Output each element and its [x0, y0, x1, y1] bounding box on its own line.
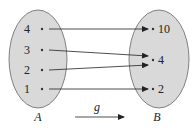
set-a-element-3: 3 [24, 43, 30, 57]
set-b-element-10: 10 [158, 22, 170, 36]
set-a-element-4: 4 [24, 22, 30, 36]
dot [41, 49, 43, 51]
set-a-element-2: 2 [24, 63, 30, 77]
set-b-element-4: 4 [158, 53, 164, 67]
dot [41, 88, 43, 90]
dot [152, 59, 154, 61]
function-label: g [94, 100, 100, 114]
dot [152, 28, 154, 30]
set-a-ellipse [9, 10, 67, 108]
dot [152, 88, 154, 90]
mapping-diagram: 4 3 2 1 10 4 2 A B g [0, 0, 194, 130]
dot [41, 69, 43, 71]
set-a-element-1: 1 [24, 82, 30, 96]
set-a-label: A [33, 110, 42, 124]
set-b-label: B [153, 110, 161, 124]
set-b-element-2: 2 [158, 82, 164, 96]
dot [41, 28, 43, 30]
